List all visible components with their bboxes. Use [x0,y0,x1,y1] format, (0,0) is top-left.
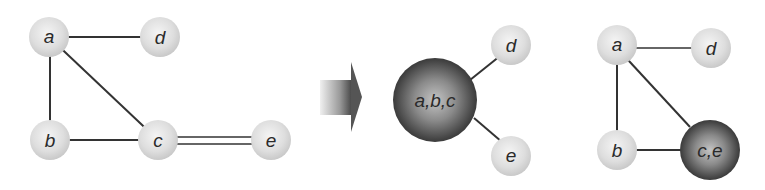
node-label: d [155,27,167,48]
node-label: a [612,34,623,55]
left-graph: a b c d e [29,17,291,160]
middle-graph: a,b,c d e [393,25,531,176]
node-label: b [45,130,56,151]
node-d: d [491,25,531,65]
node-e: e [251,120,291,160]
node-label: a [44,26,55,47]
node-label: e [506,145,517,166]
node-label: d [506,35,518,56]
node-b: b [597,130,637,170]
node-label: a,b,c [414,90,456,111]
node-b: b [30,120,70,160]
node-label: c,e [697,140,722,161]
node-c: c [138,120,178,160]
node-label: c [153,130,163,151]
graph-contraction-diagram: a b c d e a,b,c [0,0,765,190]
node-d: d [691,28,731,68]
edge-a-c [49,37,158,140]
node-e: e [491,136,531,176]
edge-abc-e [474,118,502,142]
edge-abc-d [470,56,500,80]
node-a: a [597,25,637,65]
node-label: b [612,140,623,161]
node-d: d [140,17,180,57]
node-ce-merged: c,e [680,120,740,180]
right-graph: a b c,e d [597,25,740,180]
transform-arrow-icon [320,62,362,132]
node-abc-merged: a,b,c [393,58,477,142]
node-label: d [706,38,718,59]
node-a: a [29,17,69,57]
node-label: e [266,130,277,151]
